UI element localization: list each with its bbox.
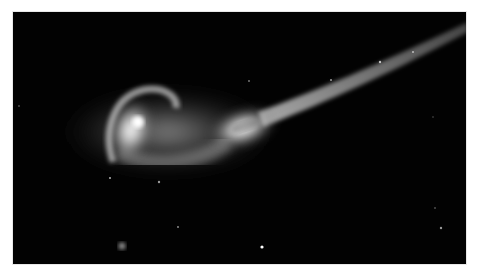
tidal-tail [258,22,466,127]
galaxy-photo [13,12,466,264]
galaxy-illustration [13,12,466,264]
